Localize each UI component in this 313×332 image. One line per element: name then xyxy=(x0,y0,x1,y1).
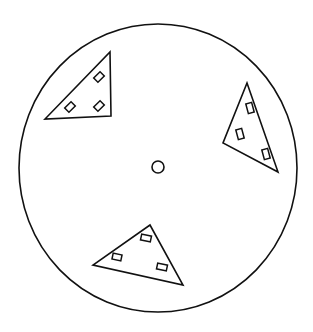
slot-hole xyxy=(94,101,105,112)
slot-hole xyxy=(156,263,167,271)
triangle-plate-right xyxy=(223,83,278,172)
slot-hole xyxy=(140,234,151,242)
slot-hole xyxy=(236,128,244,139)
slot-hole xyxy=(94,72,105,83)
center-hole xyxy=(152,161,164,173)
triangle-plates xyxy=(45,52,278,285)
rotor-diagram xyxy=(0,0,313,332)
triangle-outline xyxy=(93,225,183,285)
slot-hole xyxy=(112,253,122,261)
triangle-plate-top-left xyxy=(45,52,111,119)
slot-hole xyxy=(262,148,270,159)
slot-hole xyxy=(246,102,254,113)
triangle-plate-bottom xyxy=(93,225,183,285)
slot-hole xyxy=(65,102,76,113)
